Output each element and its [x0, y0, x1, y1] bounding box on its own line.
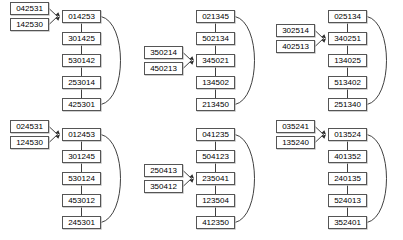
input-edge	[183, 53, 194, 61]
input-node: 302514	[276, 24, 315, 37]
chain-node: 513402	[328, 76, 367, 89]
input-edge	[315, 135, 326, 143]
input-node: 250413	[144, 164, 183, 177]
chain-node: 134502	[196, 76, 235, 89]
back-edge	[101, 135, 121, 223]
back-edge	[101, 17, 121, 105]
chain-node: 425301	[62, 98, 101, 111]
chain-node: 012453	[62, 128, 101, 141]
chain-node: 453012	[62, 194, 101, 207]
permutation-group: 0425311425300142533014255301422530144253…	[0, 0, 134, 120]
input-edge	[315, 127, 326, 135]
input-node: 142530	[10, 18, 49, 31]
chain-node: 401352	[328, 150, 367, 163]
chain-node: 412350	[196, 216, 235, 229]
chain-node: 352401	[328, 216, 367, 229]
chain-node: 021345	[196, 10, 235, 23]
chain-node: 301245	[62, 150, 101, 163]
chain-node: 134025	[328, 54, 367, 67]
input-edge	[49, 135, 60, 143]
input-node: 035241	[276, 120, 315, 133]
input-edge	[183, 179, 194, 187]
chain-node: 240135	[328, 172, 367, 185]
chain-node: 502134	[196, 32, 235, 45]
diagram-canvas: 0425311425300142533014255301422530144253…	[0, 0, 403, 240]
chain-node: 301425	[62, 32, 101, 45]
chain-node: 235041	[196, 172, 235, 185]
input-node: 024531	[10, 120, 49, 133]
input-node: 350412	[144, 180, 183, 193]
permutation-group: 0352411352400135244013522401355240133524…	[266, 118, 400, 238]
chain-node: 253014	[62, 76, 101, 89]
chain-node: 345021	[196, 54, 235, 67]
input-node: 135240	[276, 136, 315, 149]
back-edge	[235, 135, 255, 223]
back-edge	[367, 135, 387, 223]
chain-node: 213450	[196, 98, 235, 111]
input-edge	[183, 171, 194, 179]
chain-node: 340251	[328, 32, 367, 45]
back-edge	[235, 17, 255, 105]
input-edge	[49, 17, 60, 25]
input-node: 042531	[10, 2, 49, 15]
chain-node: 530142	[62, 54, 101, 67]
chain-node: 123504	[196, 194, 235, 207]
chain-node: 013524	[328, 128, 367, 141]
chain-node: 245301	[62, 216, 101, 229]
input-edge	[49, 127, 60, 135]
permutation-group: 3502144502130213455021343450211345022134…	[134, 0, 268, 120]
input-edge	[315, 31, 326, 39]
chain-node: 025134	[328, 10, 367, 23]
input-node: 402513	[276, 40, 315, 53]
input-edge	[49, 9, 60, 17]
back-edge	[367, 17, 387, 105]
input-node: 350214	[144, 46, 183, 59]
chain-node: 014253	[62, 10, 101, 23]
permutation-group: 3025144025130251343402511340255134022513…	[266, 0, 400, 120]
input-node: 450213	[144, 62, 183, 75]
input-node: 124530	[10, 136, 49, 149]
chain-node: 530124	[62, 172, 101, 185]
chain-node: 504123	[196, 150, 235, 163]
input-edge	[183, 61, 194, 69]
chain-node: 041235	[196, 128, 235, 141]
input-edge	[315, 39, 326, 47]
chain-node: 251340	[328, 98, 367, 111]
permutation-group: 2504133504120412355041232350411235044123…	[134, 118, 268, 238]
permutation-group: 0245311245300124533012455301244530122453…	[0, 118, 134, 238]
chain-node: 524013	[328, 194, 367, 207]
